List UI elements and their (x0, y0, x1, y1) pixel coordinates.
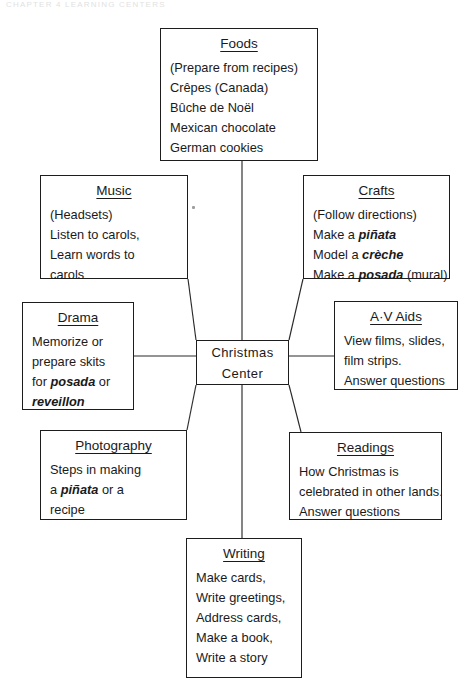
node-text-line: carols (50, 265, 178, 285)
foreign-term: reveillon (32, 394, 85, 409)
node-music-lines: (Headsets)Listen to carols,Learn words t… (50, 205, 178, 285)
node-text-line: German cookies (170, 138, 308, 158)
foreign-term: piñata (359, 227, 397, 242)
node-photography[interactable]: Photography Steps in makinga piñata or a… (40, 430, 187, 520)
node-readings-lines: How Christmas iscelebrated in other land… (299, 462, 432, 522)
connector-center-music (188, 279, 196, 340)
node-text-line: Make cards, (196, 568, 292, 588)
node-text-line: film strips. (344, 351, 448, 371)
node-writing[interactable]: Writing Make cards,Write greetings,Addre… (186, 538, 302, 678)
node-photography-lines: Steps in makinga piñata or arecipe (50, 460, 177, 520)
node-crafts[interactable]: Crafts (Follow directions)Make a piñataM… (303, 175, 450, 279)
node-foods[interactable]: Foods (Prepare from recipes)Crêpes (Cana… (160, 28, 318, 161)
node-text-line: celebrated in other lands. (299, 482, 432, 502)
node-text-line: Steps in making (50, 460, 177, 480)
foreign-term: crèche (362, 247, 403, 262)
connector-center-crafts (289, 279, 303, 340)
node-text-line: Model a crèche (313, 245, 440, 265)
node-readings-title: Readings (299, 439, 432, 457)
node-text-line: Answer questions (299, 502, 432, 522)
node-drama[interactable]: Drama Memorize orprepare skitsfor posada… (22, 302, 134, 410)
node-text-line: recipe (50, 500, 177, 520)
node-text-line: Bûche de Noël (170, 98, 308, 118)
node-drama-title: Drama (32, 309, 124, 327)
node-text-line: Learn words to (50, 245, 178, 265)
scan-speck (192, 206, 195, 209)
node-av-aids-lines: View films, slides,film strips.Answer qu… (344, 331, 448, 391)
node-text-line: Make a piñata (313, 225, 440, 245)
node-text-line: Make a posada (mural) (313, 265, 440, 285)
node-av-aids[interactable]: A·V Aids View films, slides,film strips.… (334, 301, 458, 390)
node-text-line: (Prepare from recipes) (170, 58, 308, 78)
node-text-line: prepare skits (32, 352, 124, 372)
center-line-2: Center (222, 363, 263, 384)
node-av-aids-title: A·V Aids (344, 308, 448, 326)
node-text-line: View films, slides, (344, 331, 448, 351)
node-text-line: How Christmas is (299, 462, 432, 482)
node-text-line: Address cards, (196, 608, 292, 628)
node-text-line: (Follow directions) (313, 205, 440, 225)
node-text-line: Make a book, (196, 628, 292, 648)
node-foods-lines: (Prepare from recipes)Crêpes (Canada)Bûc… (170, 58, 308, 158)
node-writing-lines: Make cards,Write greetings,Address cards… (196, 568, 292, 668)
node-text-line: (Headsets) (50, 205, 178, 225)
node-text-line: reveillon (32, 392, 124, 412)
node-music-title: Music (50, 182, 178, 200)
node-readings[interactable]: Readings How Christmas iscelebrated in o… (289, 432, 442, 520)
node-text-line: Crêpes (Canada) (170, 78, 308, 98)
node-text-line: Listen to carols, (50, 225, 178, 245)
node-christmas-center[interactable]: Christmas Center (196, 340, 289, 385)
connector-center-readings (289, 385, 301, 432)
foreign-term: posada (359, 267, 404, 282)
node-music[interactable]: Music (Headsets)Listen to carols,Learn w… (40, 175, 188, 279)
node-text-line: Answer questions (344, 371, 448, 391)
node-text-line: a piñata or a (50, 480, 177, 500)
foreign-term: piñata (61, 482, 99, 497)
node-text-line: Write greetings, (196, 588, 292, 608)
node-text-line: Memorize or (32, 332, 124, 352)
diagram-page: CHAPTER 4 LEARNING CENTERS Foods (Prepar… (0, 0, 473, 687)
node-text-line: Mexican chocolate (170, 118, 308, 138)
node-drama-lines: Memorize orprepare skitsfor posada orrev… (32, 332, 124, 412)
foreign-term: posada (51, 374, 96, 389)
node-foods-title: Foods (170, 35, 308, 53)
node-crafts-title: Crafts (313, 182, 440, 200)
center-line-1: Christmas (211, 342, 273, 363)
node-crafts-lines: (Follow directions)Make a piñataModel a … (313, 205, 440, 285)
node-writing-title: Writing (196, 545, 292, 563)
connector-center-photography (187, 385, 196, 430)
node-text-line: for posada or (32, 372, 124, 392)
node-photography-title: Photography (50, 437, 177, 455)
node-text-line: Write a story (196, 648, 292, 668)
